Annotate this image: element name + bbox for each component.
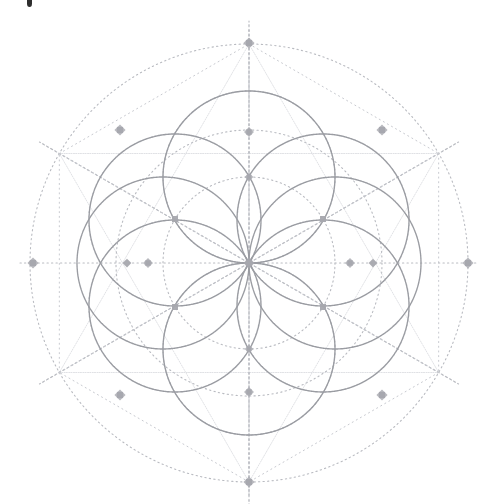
node-ring-east (369, 259, 378, 268)
node-hex-se (376, 389, 387, 400)
node-hex-ne-spikes (376, 124, 387, 135)
node-petal-sw-square (172, 304, 178, 310)
node-hex-sw (114, 389, 125, 400)
node-petal-sw (172, 304, 178, 310)
node-vesica-bottom (245, 345, 254, 354)
node-vesica-top-spikes (245, 173, 254, 182)
node-axis-east-spikes (462, 257, 473, 268)
node-cross-east (345, 258, 355, 268)
node-hex-se-spikes (376, 389, 387, 400)
figure-canvas (0, 0, 496, 504)
node-cross-west-spikes (143, 258, 153, 268)
node-ring-north (244, 127, 254, 137)
node-hex-sw-spikes (114, 389, 125, 400)
node-ring-north-spikes (244, 127, 254, 137)
node-hex-nw (114, 124, 125, 135)
node-cross-east-spikes (345, 258, 355, 268)
node-axis-west-spikes (27, 257, 38, 268)
node-axis-north-spikes (243, 37, 254, 48)
node-markers-layer (27, 37, 473, 487)
node-vesica-bottom-spikes (245, 345, 254, 354)
node-petal-nw (172, 216, 178, 222)
node-axis-east (462, 257, 473, 268)
node-vesica-top (245, 173, 254, 182)
node-center-spikes (243, 257, 254, 268)
node-axis-south-spikes (243, 476, 254, 487)
node-axis-north (243, 37, 254, 48)
node-petal-se (320, 304, 326, 310)
node-petal-nw-square (172, 216, 178, 222)
node-axis-south (243, 476, 254, 487)
top-edge-speck (27, 0, 32, 7)
node-petal-ne-square (320, 216, 326, 222)
node-petal-ne (320, 216, 326, 222)
node-center (243, 257, 254, 268)
node-ring-east-diamond (369, 259, 378, 268)
node-axis-west (27, 257, 38, 268)
node-petal-se-square (320, 304, 326, 310)
node-cross-west (143, 258, 153, 268)
node-hex-nw-spikes (114, 124, 125, 135)
node-hex-ne (376, 124, 387, 135)
sacred-geometry-figure (0, 0, 496, 504)
